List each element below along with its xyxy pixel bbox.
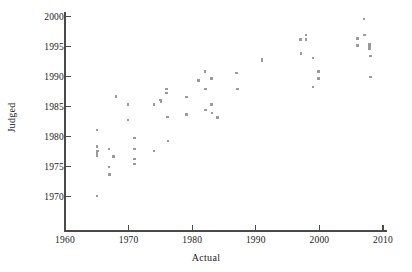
y-ticklabel-2000: 2000 (24, 12, 64, 22)
x-ticklabel-1990: 1990 (236, 235, 276, 246)
data-point (96, 129, 99, 132)
data-point (127, 119, 130, 122)
data-point (108, 173, 111, 176)
data-point (261, 59, 264, 62)
y-ticklabel-1990: 1990 (24, 72, 64, 82)
data-point (115, 95, 118, 98)
data-point (185, 113, 188, 116)
data-point (133, 148, 136, 151)
data-point (167, 140, 170, 143)
data-point (317, 70, 320, 73)
data-point (153, 150, 156, 153)
data-point (96, 145, 99, 148)
data-point (369, 55, 372, 58)
data-point (96, 150, 99, 153)
data-point (204, 88, 207, 91)
x-ticklabel-1980: 1980 (172, 235, 212, 246)
y-ticklabel-1970: 1970 (24, 192, 64, 202)
data-point (133, 137, 136, 140)
data-point (165, 88, 168, 91)
data-point (166, 116, 169, 119)
scatter-plot-figure: 196019701980199020002010 197019751980198… (0, 0, 412, 272)
data-point (133, 158, 136, 161)
data-point (185, 96, 188, 99)
data-point (153, 103, 156, 106)
data-point (363, 34, 366, 37)
data-point (210, 103, 213, 106)
data-point (127, 103, 130, 106)
data-point (317, 77, 320, 80)
x-axis-label: Actual (0, 252, 412, 263)
data-point (204, 109, 207, 112)
data-point (204, 70, 207, 73)
data-point (96, 154, 99, 157)
y-ticklabel-1975: 1975 (24, 162, 64, 172)
data-point (96, 195, 99, 198)
x-axis-line (64, 230, 387, 232)
y-ticklabel-1995: 1995 (24, 42, 64, 52)
data-point (112, 155, 115, 158)
data-point (363, 18, 366, 21)
x-ticklabel-1960: 1960 (45, 235, 85, 246)
data-point (300, 52, 303, 55)
data-point (369, 76, 372, 79)
data-point (299, 38, 302, 41)
data-point (197, 79, 200, 82)
data-point (312, 86, 315, 89)
data-point (133, 163, 136, 166)
y-axis-label: Judged (6, 83, 17, 153)
plot-data-area (65, 13, 383, 229)
x-ticklabel-2000: 2000 (299, 235, 339, 246)
data-point (160, 101, 163, 104)
data-point (236, 88, 239, 91)
y-ticklabel-1980: 1980 (24, 132, 64, 142)
y-ticklabel-1985: 1985 (24, 102, 64, 112)
x-ticklabel-2010: 2010 (363, 235, 403, 246)
data-point (305, 38, 308, 41)
data-point (210, 77, 213, 80)
data-point (165, 92, 168, 95)
data-point (305, 34, 308, 37)
data-point (368, 48, 371, 51)
data-point (216, 116, 219, 119)
data-point (235, 72, 238, 75)
data-point (108, 166, 111, 169)
data-point (108, 148, 111, 151)
data-point (312, 57, 315, 60)
data-point (356, 37, 359, 40)
data-point (356, 44, 359, 47)
data-point (211, 112, 214, 115)
x-ticklabel-1970: 1970 (109, 235, 149, 246)
